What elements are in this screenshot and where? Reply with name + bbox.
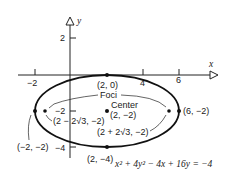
- x-axis-arrow-icon: [210, 71, 218, 79]
- x-tick-neg2: −2: [27, 78, 37, 88]
- center-coords-label: (2, −2): [110, 110, 136, 120]
- top-vertex-label: (2, 0): [97, 80, 118, 90]
- focus-right-point: [167, 109, 171, 113]
- y-axis: y 2 −2 −4: [55, 16, 82, 158]
- ellipse-equation: x² + 4y² − 4x + 16y = −4: [114, 159, 213, 169]
- bottom-vertex-label: (2, −4): [87, 154, 113, 164]
- x-tick-6: 6: [176, 75, 181, 85]
- y-axis-arrow-icon: [66, 17, 74, 25]
- foci-label: Foci: [100, 90, 117, 100]
- focus-right-label: (2 + 2√3, −2): [97, 127, 148, 137]
- y-tick-neg4: −4: [55, 143, 65, 153]
- right-vertex-label: (6, −2): [183, 106, 209, 116]
- right-vertex-point: [177, 109, 181, 113]
- center-label: Center: [111, 100, 138, 110]
- bottom-vertex-point: [105, 145, 109, 149]
- focus-left-point: [43, 109, 47, 113]
- left-vertex-label: (−2, −2): [17, 142, 49, 152]
- ellipse-diagram: y 2 −2 −4 x −2 4 6 (2, 0) (2, −4) (−2, −…: [0, 0, 228, 178]
- x-axis-label: x: [208, 59, 214, 69]
- center-point: [105, 109, 109, 113]
- y-axis-label: y: [76, 16, 82, 26]
- y-tick-neg2: −2: [55, 106, 65, 116]
- left-vertex-point: [33, 109, 37, 113]
- y-tick-2: 2: [60, 33, 65, 43]
- focus-left-label: (2 − 2√3, −2): [53, 116, 104, 126]
- top-vertex-point: [105, 73, 109, 77]
